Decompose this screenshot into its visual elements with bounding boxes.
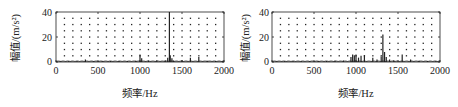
- grid-dot: [431, 36, 432, 37]
- grid-dot: [313, 30, 314, 31]
- grid-dot: [181, 55, 182, 56]
- grid-dot: [139, 24, 140, 25]
- grid-dot: [156, 30, 157, 31]
- grid-dot: [431, 24, 432, 25]
- plot-area-left: [0, 0, 229, 107]
- grid-dot: [106, 43, 107, 44]
- grid-dot: [173, 43, 174, 44]
- grid-dot: [173, 24, 174, 25]
- grid-dot: [123, 18, 124, 19]
- grid-dot: [355, 36, 356, 37]
- grid-dot: [165, 24, 166, 25]
- grid-dot: [123, 30, 124, 31]
- grid-dot: [355, 43, 356, 44]
- grid-dot: [347, 49, 348, 50]
- grid-dot: [355, 30, 356, 31]
- grid-dot: [372, 18, 373, 19]
- grid-dot: [297, 24, 298, 25]
- grid-dot: [139, 30, 140, 31]
- grid-dot: [305, 24, 306, 25]
- grid-dot: [81, 30, 82, 31]
- grid-dot: [288, 24, 289, 25]
- grid-dot: [397, 43, 398, 44]
- x-tick-0: 0: [270, 65, 275, 76]
- grid-dot: [313, 36, 314, 37]
- grid-dot: [389, 43, 390, 44]
- chart-panel-right: 幅值/(m/s²) 40 20 0 0 500 1000 1500 2000 频…: [229, 0, 458, 107]
- grid-dot: [381, 36, 382, 37]
- grid-dot: [89, 30, 90, 31]
- grid-dot: [423, 36, 424, 37]
- grid-dot: [198, 30, 199, 31]
- grid-dot: [322, 55, 323, 56]
- grid-dot: [97, 43, 98, 44]
- grid-dot: [148, 55, 149, 56]
- y-tick-20: 20: [42, 32, 52, 43]
- grid-dot: [207, 18, 208, 19]
- grid-dot: [288, 30, 289, 31]
- grid-dot: [322, 36, 323, 37]
- grid-dot: [190, 49, 191, 50]
- grid-dot: [339, 43, 340, 44]
- grid-dot: [148, 18, 149, 19]
- grid-dot: [389, 49, 390, 50]
- grid-dot: [173, 30, 174, 31]
- grid-dot: [297, 55, 298, 56]
- grid-dot: [123, 49, 124, 50]
- grid-dot: [372, 55, 373, 56]
- grid-dot: [414, 30, 415, 31]
- grid-dot: [198, 43, 199, 44]
- grid-dot: [139, 43, 140, 44]
- grid-dot: [397, 18, 398, 19]
- grid-dot: [381, 55, 382, 56]
- grid-dot: [330, 30, 331, 31]
- grid-dot: [322, 43, 323, 44]
- grid-dot: [114, 55, 115, 56]
- grid-dot: [330, 55, 331, 56]
- grid-dot: [148, 30, 149, 31]
- grid-dot: [414, 18, 415, 19]
- grid-dot: [148, 36, 149, 37]
- grid-dot: [89, 43, 90, 44]
- grid-dot: [148, 49, 149, 50]
- grid-dot: [165, 30, 166, 31]
- grid-dot: [381, 30, 382, 31]
- grid-dot: [114, 30, 115, 31]
- grid-dot: [190, 36, 191, 37]
- grid-dot: [414, 36, 415, 37]
- grid-dot: [372, 24, 373, 25]
- x-tick-2000: 2000: [430, 65, 450, 76]
- grid-dot: [131, 24, 132, 25]
- grid-dot: [72, 55, 73, 56]
- grid-dot: [305, 43, 306, 44]
- grid-dot: [106, 18, 107, 19]
- grid-dot: [81, 49, 82, 50]
- grid-dot: [339, 24, 340, 25]
- x-tick-1500: 1500: [172, 65, 192, 76]
- grid-dot: [89, 49, 90, 50]
- y-axis-label: 幅值/(m/s²): [7, 14, 22, 62]
- grid-dot: [198, 55, 199, 56]
- y-tick-40: 40: [259, 7, 269, 18]
- y-tick-20: 20: [259, 32, 269, 43]
- grid-dot: [156, 36, 157, 37]
- grid-dot: [97, 30, 98, 31]
- grid-dot: [297, 43, 298, 44]
- grid-dot: [406, 30, 407, 31]
- grid-dot: [156, 24, 157, 25]
- x-tick-0: 0: [54, 65, 59, 76]
- grid-dot: [330, 49, 331, 50]
- grid-dot: [431, 49, 432, 50]
- grid-dot: [305, 49, 306, 50]
- grid-dot: [148, 43, 149, 44]
- grid-dot: [364, 49, 365, 50]
- grid-dot: [148, 24, 149, 25]
- grid-dot: [131, 36, 132, 37]
- grid-dot: [81, 55, 82, 56]
- grid-dot: [72, 24, 73, 25]
- grid-dot: [181, 43, 182, 44]
- grid-dot: [364, 36, 365, 37]
- y-tick-0: 0: [47, 56, 52, 67]
- grid-dot: [207, 24, 208, 25]
- grid-dot: [372, 49, 373, 50]
